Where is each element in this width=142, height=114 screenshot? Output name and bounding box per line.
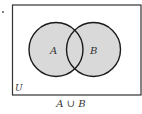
set-b-label: B — [89, 45, 97, 56]
bullet-dot — [2, 11, 4, 13]
venn-diagram: A B U — [0, 0, 142, 114]
set-a-label: A — [49, 45, 57, 56]
universe-label: U — [15, 83, 23, 93]
diagram-caption: A ∪ B — [0, 98, 142, 109]
